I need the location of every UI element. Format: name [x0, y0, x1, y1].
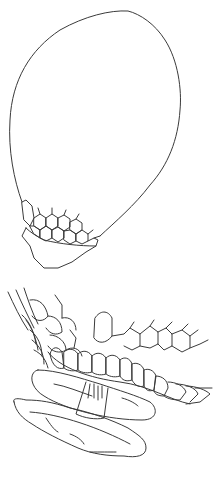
disc-mark — [54, 384, 92, 396]
left-fibres — [8, 288, 48, 368]
lower-fringed-disc — [14, 399, 146, 457]
disc-mark — [122, 398, 138, 406]
column-striations — [88, 384, 102, 400]
annulus-cells — [22, 200, 100, 246]
peristome-detail-figure: enlarged detail of ribbed annulus, operc… — [0, 280, 222, 478]
capsule-drawing — [0, 0, 222, 280]
capsule-base — [22, 228, 96, 268]
capsule-outline — [10, 11, 181, 236]
peristome-detail-drawing — [0, 280, 222, 478]
upper-cells — [30, 295, 208, 356]
capsule-figure: ovoid capsule with honeycomb-celled annu… — [0, 0, 222, 280]
